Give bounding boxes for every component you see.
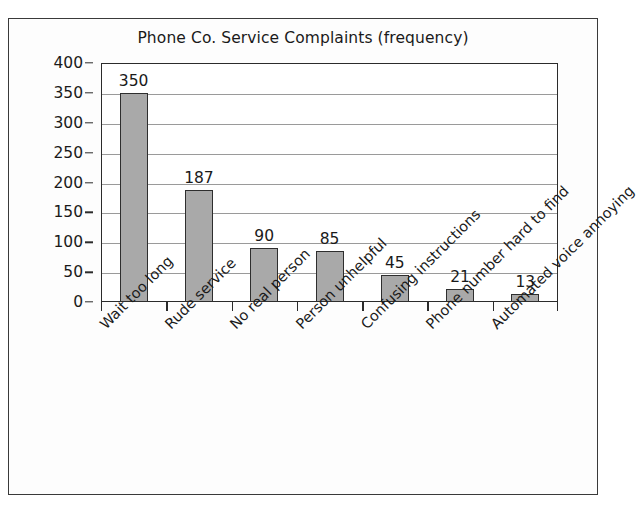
y-axis-tick-mark [85,301,93,302]
y-axis-tick-label: 350 [53,84,83,102]
x-axis-tick-mark [232,302,233,311]
bar-value-label: 21 [450,268,470,286]
y-axis-tick-mark [85,182,93,183]
y-axis-tick-label: 200 [53,174,83,192]
y-axis: 400350300250200150100500 [39,63,93,302]
bar-value-label: 350 [119,72,149,90]
y-axis-tick-label: 0 [73,293,83,311]
y-axis-tick-mark [85,152,93,153]
y-axis-tick-mark [85,212,93,213]
y-axis-tick-label: 100 [53,233,83,251]
bar-value-label: 90 [254,227,274,245]
x-axis-tick-mark [557,302,558,311]
bar [511,294,539,302]
bar-value-label: 187 [184,169,214,187]
chart-frame: Phone Co. Service Complaints (frequency)… [8,18,598,495]
x-axis-tick-mark [166,302,167,311]
bar-value-label: 13 [515,273,535,291]
bar [185,190,213,302]
chart-title: Phone Co. Service Complaints (frequency) [9,29,597,47]
bar [446,289,474,302]
x-axis-tick-mark [297,302,298,311]
y-axis-tick-label: 150 [53,203,83,221]
bar-value-label: 45 [385,254,405,272]
y-axis-tick-mark [85,62,93,63]
x-axis-tick-mark [101,302,102,311]
bar [250,248,278,302]
bars-layer: 3501879085452113 [101,63,558,302]
y-axis-tick-mark [85,122,93,123]
bar [381,275,409,302]
y-axis-tick-label: 300 [53,114,83,132]
x-axis-tick-mark [493,302,494,311]
y-axis-tick-label: 400 [53,54,83,72]
y-axis-tick-label: 250 [53,144,83,162]
bar [120,93,148,302]
y-axis-tick-mark [85,242,93,243]
x-axis-ticks [101,302,558,311]
x-axis-tick-mark [362,302,363,311]
bar-value-label: 85 [320,230,340,248]
y-axis-tick-mark [85,92,93,93]
bar [316,251,344,302]
y-axis-tick-mark [85,271,93,272]
y-axis-tick-label: 50 [63,263,83,281]
x-axis-tick-mark [427,302,428,311]
